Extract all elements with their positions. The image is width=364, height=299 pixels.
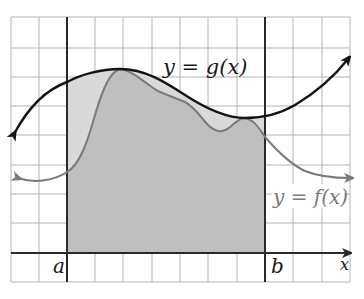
label-g: y = g(x) — [162, 55, 247, 79]
label-f: y = f(x) — [272, 185, 348, 209]
label-x-axis: x — [340, 255, 349, 274]
area-between-curves-diagram: y = g(x) y = f(x) a b x — [0, 0, 364, 299]
label-b: b — [271, 254, 284, 278]
label-a: a — [53, 254, 65, 278]
